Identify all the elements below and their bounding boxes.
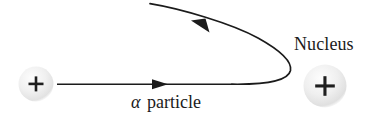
alpha-particle-label: α particle (131, 93, 201, 111)
scattering-diagram: Nucleus α particle (0, 0, 383, 122)
nucleus-label: Nucleus (294, 35, 354, 53)
nucleus-charge-sphere (304, 65, 347, 108)
source-charge-sphere (19, 67, 54, 102)
incoming-arrowhead-icon (152, 79, 168, 89)
outgoing-arrowhead-icon (191, 19, 210, 33)
alpha-particle-text: particle (142, 92, 200, 112)
scattering-trajectory-curve (150, 4, 291, 85)
alpha-symbol: α (131, 92, 142, 112)
